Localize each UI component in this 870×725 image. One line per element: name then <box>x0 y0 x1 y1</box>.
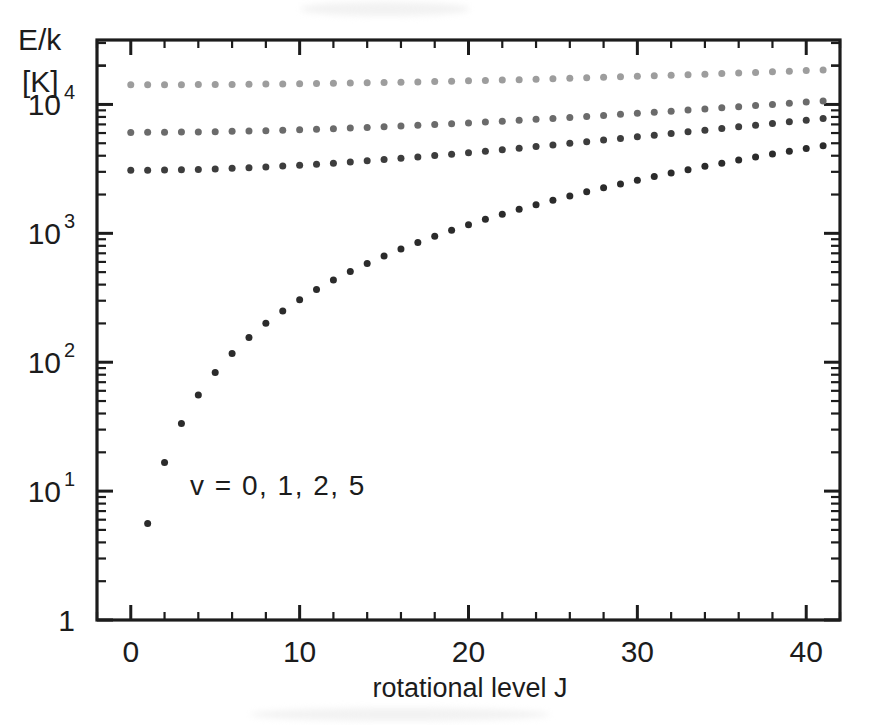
data-point <box>212 81 219 88</box>
data-point <box>617 111 624 118</box>
data-point <box>718 70 725 77</box>
data-point <box>651 173 658 180</box>
y-tick-exponent: 2 <box>64 339 75 361</box>
data-point <box>718 125 725 132</box>
data-point <box>566 114 573 121</box>
data-point <box>685 128 692 135</box>
data-point <box>364 124 371 131</box>
data-point <box>313 286 320 293</box>
data-point <box>127 129 134 136</box>
data-point <box>786 148 793 155</box>
data-point <box>245 164 252 171</box>
data-point <box>668 170 675 177</box>
data-point <box>583 138 590 145</box>
data-point <box>820 115 827 122</box>
data-point <box>482 119 489 126</box>
data-point <box>701 127 708 134</box>
data-point <box>549 197 556 204</box>
plot-frame <box>97 40 840 620</box>
data-point <box>212 165 219 172</box>
y-axis-tick-labels: 1101102103104 <box>28 81 76 637</box>
data-point <box>668 72 675 79</box>
data-point <box>381 123 388 130</box>
data-point <box>735 157 742 164</box>
data-point <box>549 75 556 82</box>
data-point <box>803 145 810 152</box>
data-point <box>566 75 573 82</box>
data-point <box>330 125 337 132</box>
x-axis-tick-labels: 010203040 <box>122 635 822 668</box>
data-point <box>820 142 827 149</box>
data-point <box>752 102 759 109</box>
data-point <box>313 161 320 168</box>
data-point <box>195 392 202 399</box>
data-point <box>634 133 641 140</box>
data-point <box>245 334 252 341</box>
data-point <box>448 151 455 158</box>
data-point <box>583 74 590 81</box>
data-point <box>786 118 793 125</box>
data-point <box>431 78 438 85</box>
data-point <box>178 166 185 173</box>
data-point <box>431 233 438 240</box>
data-point <box>820 97 827 104</box>
x-axis-ticks <box>97 40 840 620</box>
data-point <box>465 77 472 84</box>
data-point <box>279 80 286 87</box>
data-point <box>718 160 725 167</box>
data-point <box>752 154 759 161</box>
data-point <box>752 69 759 76</box>
data-point <box>364 157 371 164</box>
data-point <box>549 115 556 122</box>
data-point <box>414 78 421 85</box>
y-tick-label: 10 <box>28 217 61 250</box>
series-annotation: v = 0, 1, 2, 5 <box>190 470 366 501</box>
data-point <box>583 113 590 120</box>
data-point <box>600 137 607 144</box>
data-point <box>499 77 506 84</box>
data-point <box>701 105 708 112</box>
data-point <box>769 151 776 158</box>
data-point <box>414 153 421 160</box>
data-point <box>820 66 827 73</box>
data-point <box>549 141 556 148</box>
data-point <box>229 81 236 88</box>
y-tick-label: 10 <box>28 346 61 379</box>
data-point <box>195 166 202 173</box>
data-point <box>262 127 269 134</box>
data-point <box>245 81 252 88</box>
data-point <box>313 126 320 133</box>
data-point <box>634 73 641 80</box>
data-point <box>161 81 168 88</box>
data-point <box>296 80 303 87</box>
data-point <box>414 122 421 129</box>
data-point <box>364 79 371 86</box>
data-point <box>482 77 489 84</box>
data-point <box>431 152 438 159</box>
data-point <box>144 129 151 136</box>
data-point <box>685 107 692 114</box>
y-tick-label: 1 <box>58 604 75 637</box>
y-tick-label: 10 <box>28 475 61 508</box>
data-point <box>651 132 658 139</box>
data-point <box>144 81 151 88</box>
data-point <box>144 520 151 527</box>
data-point <box>769 101 776 108</box>
data-point <box>634 177 641 184</box>
data-point <box>600 112 607 119</box>
data-point <box>161 459 168 466</box>
data-point <box>769 120 776 127</box>
data-point <box>448 120 455 127</box>
data-point <box>566 192 573 199</box>
data-point <box>499 146 506 153</box>
data-points <box>127 66 826 527</box>
data-point <box>212 369 219 376</box>
data-point <box>364 260 371 267</box>
series-v-5 <box>127 66 826 88</box>
data-point <box>651 109 658 116</box>
data-point <box>465 149 472 156</box>
data-point <box>381 156 388 163</box>
data-point <box>296 162 303 169</box>
x-tick-label: 10 <box>283 635 316 668</box>
data-point <box>516 206 523 213</box>
